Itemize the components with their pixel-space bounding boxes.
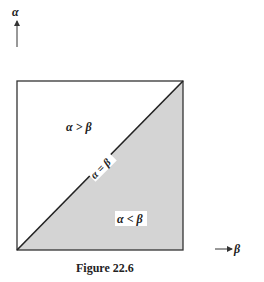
region-upper-label: α > β — [66, 120, 92, 134]
figure-caption: Figure 22.6 — [76, 261, 134, 275]
region-lower-label: α < β — [117, 212, 143, 226]
y-axis-label: α — [12, 5, 19, 19]
figure-canvas: α α > β α < β α = β β Figure 22.6 — [0, 0, 264, 282]
x-axis-label: β — [233, 242, 241, 256]
